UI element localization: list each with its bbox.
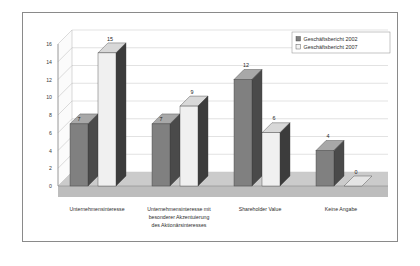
bar-side-face (252, 70, 262, 187)
chart-legend: Geschäftsbericht 2002 Geschäftsbericht 2… (292, 32, 390, 53)
bar-side-face (116, 43, 126, 186)
y-tick-10: 10 (46, 94, 52, 100)
bar-2002-shareholder-value: 12 (234, 62, 262, 186)
bar-side-face (198, 96, 208, 186)
legend-swatch-2002 (296, 37, 301, 42)
y-tick-labels: 16 14 12 10 8 6 4 2 0 (46, 41, 52, 189)
bar-2002-akzentuierung: 7 (152, 114, 180, 186)
y-tick-14: 14 (46, 59, 52, 65)
y-tick-6: 6 (49, 130, 52, 136)
bar-front-face (180, 106, 198, 186)
bar-value-label: 7 (160, 116, 163, 122)
bar-value-label: 15 (107, 36, 113, 42)
y-tick-4: 4 (49, 148, 52, 154)
y-tick-0: 0 (49, 183, 52, 189)
bar-chart-3d: 16 14 12 10 8 6 4 2 0 7 15 (0, 0, 420, 266)
bar-front-face (234, 80, 252, 187)
y-tick-8: 8 (49, 112, 52, 118)
legend-label-2007: Geschäftsbericht 2007 (304, 44, 358, 50)
bar-front-face (262, 133, 280, 186)
category-label-2-line2: besonderer Akzentuierung (149, 214, 210, 220)
category-label-2-line3: des Aktionärsinteresses (152, 222, 207, 228)
bar-value-label: 0 (355, 169, 358, 175)
bar-value-label: 9 (191, 89, 194, 95)
bar-front-face (316, 151, 334, 187)
legend-label-2002: Geschäftsbericht 2002 (304, 36, 358, 42)
category-label-3: Shareholder Value (239, 206, 282, 212)
bar-2007-akzentuierung: 9 (180, 89, 208, 187)
bar-side-face (88, 114, 98, 186)
bar-2007-unternehmensinteresse: 15 (98, 36, 126, 187)
bar-side-face (170, 114, 180, 186)
category-label-1: Unternehmensinteresse (69, 206, 124, 212)
y-tick-2: 2 (49, 165, 52, 171)
bar-value-label: 4 (327, 133, 330, 139)
chart-figure: 16 14 12 10 8 6 4 2 0 7 15 (0, 0, 420, 266)
category-label-4: Keine Angabe (325, 206, 357, 212)
x-category-labels: Unternehmensinteresse Unternehmensintere… (69, 206, 357, 228)
bar-value-label: 6 (273, 115, 276, 121)
bar-front-face (70, 124, 88, 186)
legend-swatch-2007 (296, 45, 301, 50)
bar-value-label: 7 (78, 116, 81, 122)
bar-value-label: 12 (243, 62, 249, 68)
y-tick-16: 16 (46, 41, 52, 47)
bar-front-face (98, 53, 116, 186)
category-label-2-line1: Unternehmensinteresse mit (147, 206, 211, 212)
plot-floor-front (58, 186, 388, 197)
y-tick-12: 12 (46, 77, 52, 83)
bar-side-face (280, 123, 290, 186)
bar-front-face (152, 124, 170, 186)
bar-2002-unternehmensinteresse: 7 (70, 114, 98, 186)
